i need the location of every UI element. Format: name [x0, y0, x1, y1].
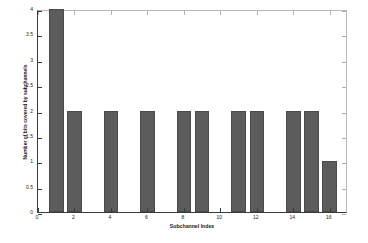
y-tick-mark-right — [342, 138, 346, 139]
x-tick-label: 14 — [290, 215, 296, 220]
bar — [49, 9, 64, 212]
y-tick-mark — [38, 163, 42, 164]
bar — [231, 111, 246, 213]
x-tick-mark — [257, 208, 258, 212]
y-tick-mark — [38, 36, 42, 37]
x-tick-label: 2 — [72, 215, 75, 220]
bar — [250, 111, 265, 213]
x-tick-label: 0 — [36, 215, 39, 220]
x-tick-mark — [147, 208, 148, 212]
y-axis-title: Number of bits covered by subchannels — [23, 64, 28, 159]
y-tick-mark-right — [342, 87, 346, 88]
x-tick-mark — [220, 208, 221, 212]
y-tick-mark — [38, 113, 42, 114]
x-tick-mark — [111, 208, 112, 212]
x-tick-label: 6 — [145, 215, 148, 220]
x-tick-mark — [293, 208, 294, 212]
y-tick-mark-right — [342, 189, 346, 190]
x-tick-mark-top — [293, 11, 294, 15]
y-tick-mark — [38, 62, 42, 63]
y-tick-mark — [38, 189, 42, 190]
x-tick-mark — [184, 208, 185, 212]
bar — [104, 111, 119, 213]
y-tick-mark-right — [342, 163, 346, 164]
x-tick-label: 16 — [326, 215, 332, 220]
y-tick-mark-right — [342, 62, 346, 63]
bar — [177, 111, 192, 213]
bar — [322, 161, 337, 212]
y-tick-mark-right — [342, 113, 346, 114]
bar — [304, 111, 319, 213]
y-tick-mark-right — [342, 36, 346, 37]
x-tick-mark-top — [257, 11, 258, 15]
y-axis-title-wrap: Number of bits covered by subchannels — [20, 10, 30, 213]
x-tick-mark-top — [330, 11, 331, 15]
x-tick-mark — [74, 208, 75, 212]
y-tick-mark-right — [342, 11, 346, 12]
y-tick-mark-right — [342, 214, 346, 215]
bar — [140, 111, 155, 213]
bar — [195, 111, 210, 213]
y-tick-mark — [38, 11, 42, 12]
x-tick-label: 4 — [109, 215, 112, 220]
x-tick-label: 12 — [253, 215, 259, 220]
x-tick-mark-top — [111, 11, 112, 15]
x-tick-mark-top — [220, 11, 221, 15]
x-axis-title: Subchannel Index — [37, 224, 347, 229]
x-tick-label: 10 — [217, 215, 223, 220]
x-tick-mark-top — [74, 11, 75, 15]
y-tick-mark — [38, 87, 42, 88]
x-tick-mark — [330, 208, 331, 212]
bar-series — [38, 11, 346, 212]
bar — [67, 111, 82, 213]
chart-figure: 0246810121416 00.511.522.533.54 Subchann… — [0, 0, 368, 243]
x-tick-mark-top — [147, 11, 148, 15]
plot-area — [37, 10, 347, 213]
x-tick-mark — [38, 208, 39, 212]
x-tick-label: 8 — [181, 215, 184, 220]
bar — [286, 111, 301, 213]
y-tick-mark — [38, 138, 42, 139]
x-tick-mark-top — [184, 11, 185, 15]
